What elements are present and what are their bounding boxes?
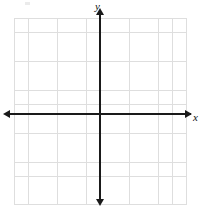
y-axis-line (99, 14, 101, 201)
y-axis-label: y (95, 1, 100, 12)
scan-artifact (25, 2, 30, 5)
x-axis-label: x (193, 112, 198, 123)
coordinate-plane-figure: y x (0, 0, 204, 213)
x-axis-left-arrowhead-icon (3, 110, 10, 118)
y-axis-bottom-arrowhead-icon (96, 199, 104, 206)
x-axis-right-arrowhead-icon (185, 110, 192, 118)
